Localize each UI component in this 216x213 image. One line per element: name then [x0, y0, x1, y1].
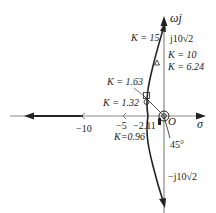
imag-axis-label: ωj — [170, 11, 182, 25]
angle-label: 45° — [170, 139, 184, 150]
gain-label-k10: K = 10 — [167, 49, 196, 60]
upper-imag-tick-label: j10√2 — [169, 33, 193, 44]
gain-label-k132: K = 1.32 — [102, 97, 139, 108]
origin-label: O — [168, 115, 176, 127]
real-tick-minus5: −5 — [116, 120, 127, 131]
root-locus-diagram: ωj j10√2 K = 15 K = 10 K = 6.24 K = 1.63… — [0, 0, 216, 213]
real-tick-breakaway: −2.11 — [133, 120, 156, 131]
locus-left-arrow-icon — [24, 113, 34, 120]
real-axis-label: σ — [197, 117, 204, 131]
lower-branch-arrow-icon — [159, 198, 166, 208]
breakaway-tick — [158, 118, 161, 125]
k163-leader-line — [134, 88, 144, 96]
gain-label-k163: K = 1.63 — [106, 76, 143, 87]
gain-label-k15: K = 15 — [130, 32, 159, 43]
k10-marker-icon — [155, 60, 160, 65]
gain-label-k624: K = 6.24 — [167, 61, 204, 72]
gain-label-k096: K=0.96 — [113, 131, 145, 142]
real-tick-minus10: −10 — [76, 123, 92, 134]
lower-imag-tick-label: −j10√2 — [168, 171, 197, 182]
